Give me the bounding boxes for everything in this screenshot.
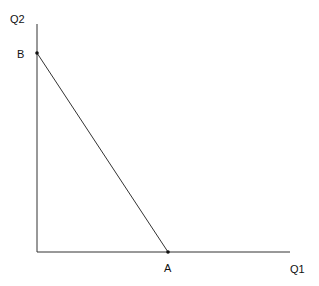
- point-b-label: B: [17, 48, 24, 60]
- point-a-label: A: [164, 262, 171, 274]
- budget-line: [37, 53, 168, 252]
- point-b: [35, 51, 39, 55]
- point-a: [166, 250, 170, 254]
- y-axis-label: Q2: [10, 13, 25, 25]
- diagram-canvas: [0, 0, 319, 286]
- x-axis-label: Q1: [290, 263, 305, 275]
